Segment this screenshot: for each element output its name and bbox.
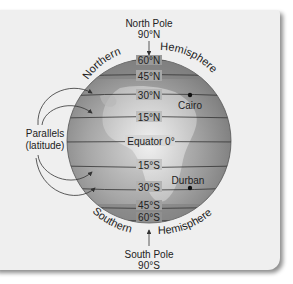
svg-text:Cairo: Cairo [178,100,202,111]
svg-text:South Pole: South Pole [125,249,174,260]
svg-text:Durban: Durban [172,175,205,186]
svg-text:North Pole: North Pole [125,18,173,29]
globe-latitude-diagram: 60°N 45°N 30°N 15°N Equator 0° 15°S 30°S… [0,0,293,284]
label-30n: 30°N [138,90,160,101]
label-60n: 60°N [138,55,160,66]
label-15n: 15°N [138,112,160,123]
label-15s: 15°S [138,160,160,171]
label-equator: Equator 0° [127,136,174,147]
city-dot-icon [188,186,192,190]
city-dot-icon [188,93,192,97]
svg-text:90°S: 90°S [138,260,160,271]
parallels-label: Parallels (latitude) [26,128,65,151]
svg-text:(latitude): (latitude) [26,140,65,151]
label-60s: 60°S [138,212,160,223]
label-45n: 45°N [138,71,160,82]
south-pole-label: South Pole 90°S [125,230,174,271]
label-30s: 30°S [138,182,160,193]
svg-text:Parallels: Parallels [26,128,64,139]
svg-text:90°N: 90°N [138,29,160,40]
label-45s: 45°S [138,200,160,211]
